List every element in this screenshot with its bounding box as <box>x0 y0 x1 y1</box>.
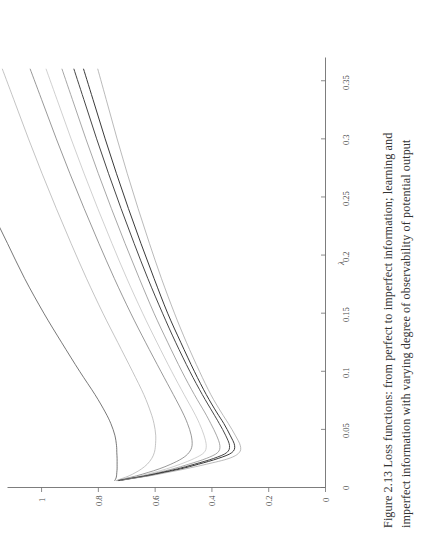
x-tick-label-2: 0.1 <box>341 367 351 378</box>
loss-curve-4 <box>46 69 206 480</box>
loss-curve-1 <box>0 69 117 480</box>
y-tick-label-5: 1 <box>37 497 47 501</box>
x-axis-title: λ <box>336 261 346 265</box>
y-tick-label-1: 0.2 <box>264 495 274 506</box>
loss-curve-5 <box>62 69 220 480</box>
loss-curve-6 <box>74 69 230 480</box>
loss-curve-2 <box>2 69 155 480</box>
x-tick-label-5: 0.25 <box>341 191 351 206</box>
curves-group <box>0 69 241 480</box>
y-tick-label-2: 0.4 <box>207 495 217 506</box>
figure-page: 00.050.10.150.20.250.30.3500.20.40.60.81… <box>0 0 442 540</box>
loss-curve-7 <box>84 69 235 480</box>
figure-caption-line-2: imperfect information with varying degre… <box>399 139 414 528</box>
x-tick-label-3: 0.15 <box>341 307 351 322</box>
plot-area <box>0 0 442 540</box>
figure-caption-line-1: Figure 2.13 Loss functions: from perfect… <box>381 133 396 528</box>
y-tick-label-3: 0.6 <box>151 495 161 506</box>
axes-group <box>8 58 326 493</box>
loss-curve-8 <box>98 69 241 480</box>
x-tick-label-0: 0 <box>341 485 351 489</box>
y-tick-label-4: 0.8 <box>94 495 104 506</box>
loss-curve-3 <box>30 69 192 480</box>
x-tick-label-6: 0.3 <box>341 135 351 146</box>
x-tick-label-7: 0.35 <box>341 75 351 90</box>
y-tick-label-0: 0 <box>321 497 331 501</box>
loss-functions-plot <box>0 0 442 540</box>
x-tick-label-1: 0.05 <box>341 423 351 438</box>
